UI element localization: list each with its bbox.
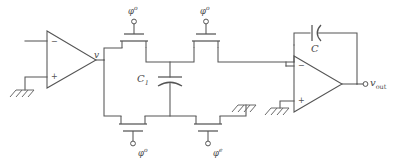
summing-node-net [218, 45, 294, 62]
ground-mid [232, 105, 256, 112]
clock-label-bottom-right: φe [213, 147, 223, 157]
cap-label-feedback: C [311, 44, 319, 54]
switch-bottom-right[interactable] [194, 116, 222, 146]
phi-superscript: o [206, 4, 210, 11]
top-mid-net [146, 48, 194, 62]
schematic-svg [0, 0, 396, 165]
output-terminal [357, 82, 368, 87]
opamp-left-minus: − [51, 38, 58, 46]
node-v-net [104, 48, 122, 116]
cap-c1-letter: C [137, 73, 145, 84]
cap-c1-subscript: 1 [145, 79, 149, 87]
phi-superscript: e [219, 146, 223, 153]
clock-label-bottom-left: φo [138, 147, 148, 157]
ground-opamp-right [265, 108, 289, 115]
switch-top-right[interactable] [192, 19, 220, 48]
phi-superscript: o [144, 146, 148, 153]
vout-subscript: out [376, 83, 387, 91]
opamp-right [280, 56, 357, 112]
cap-c1 [158, 62, 182, 116]
opamp-right-minus: − [298, 62, 305, 70]
circuit-diagram-figure: φo φo φo φe v C1 C vout − + − + [0, 0, 396, 165]
opamp-left [25, 31, 104, 90]
output-label-vout: vout [370, 78, 386, 91]
opamp-right-plus: + [298, 97, 305, 105]
opamp-left-plus: + [51, 73, 58, 81]
clock-label-top-right: φo [200, 5, 210, 15]
switch-bottom-left[interactable] [119, 116, 147, 146]
ground-input [10, 90, 34, 97]
clock-label-top-left: φo [128, 5, 138, 15]
switch-top-left[interactable] [120, 19, 148, 48]
phi-superscript: o [134, 4, 138, 11]
node-label-v: v [94, 51, 99, 60]
cap-feedback [294, 25, 357, 84]
cap-label-c1: C1 [137, 74, 149, 87]
